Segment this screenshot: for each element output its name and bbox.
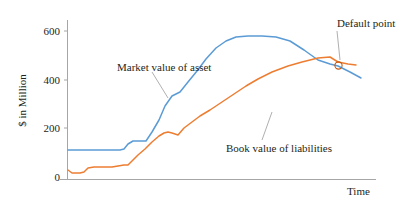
annotation-label-default-point: Default point — [337, 18, 395, 29]
leader-line-book-value — [262, 112, 272, 140]
y-axis-tick-label-400: 400 — [26, 75, 60, 86]
series-line-book-value-of-liabilities — [68, 57, 356, 173]
leader-line-default-point — [337, 31, 340, 60]
chart-plot-area — [0, 0, 407, 207]
series-line-market-value-of-asset — [68, 36, 361, 150]
y-axis-tick-label-0: 0 — [26, 172, 60, 183]
y-axis-tick-label-600: 600 — [26, 26, 60, 37]
y-axis-tick-label-200: 200 — [26, 123, 60, 134]
x-axis-title: Time — [347, 186, 370, 197]
y-axis-title: $ in Million — [17, 61, 28, 141]
series-label-book-value-of-liabilities: Book value of liabilities — [226, 143, 332, 154]
chart-figure: 600 400 200 0 $ in Million Time Market v… — [0, 0, 407, 207]
leader-line-market-value — [152, 72, 168, 98]
series-label-market-value-of-asset: Market value of asset — [117, 62, 211, 73]
